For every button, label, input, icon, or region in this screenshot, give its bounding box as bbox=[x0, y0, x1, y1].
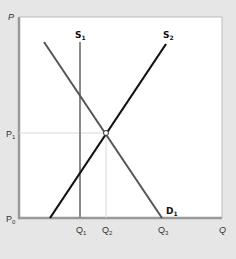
supply-demand-diagram: S1 S2 D1 P P1 P0 Q1 Q2 Q3 Q bbox=[0, 0, 236, 259]
p0-label: P0 bbox=[6, 214, 16, 225]
q3-label: Q3 bbox=[158, 225, 169, 236]
q2-label: Q2 bbox=[102, 225, 113, 236]
p1-label: P1 bbox=[6, 129, 16, 140]
equilibrium-point bbox=[104, 131, 109, 136]
y-axis-label: P bbox=[8, 12, 14, 22]
q1-label: Q1 bbox=[76, 225, 87, 236]
x-axis-label: Q bbox=[219, 225, 226, 235]
plot-area bbox=[19, 17, 222, 218]
